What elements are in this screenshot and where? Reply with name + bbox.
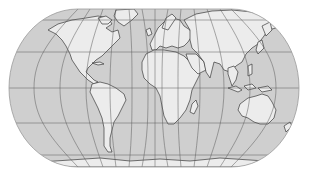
world-map: World map	[0, 0, 309, 177]
map-canvas	[0, 0, 309, 177]
